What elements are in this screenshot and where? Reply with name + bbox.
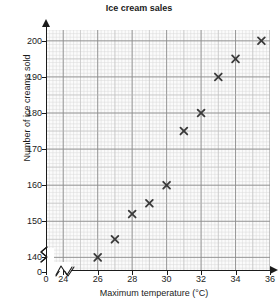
y-tick-label: 190	[8, 72, 42, 82]
x-tick-label: 28	[120, 274, 144, 284]
y-tick-label: 180	[8, 108, 42, 118]
x-tick-label: 26	[86, 274, 110, 284]
y-tick-label: 170	[8, 144, 42, 154]
x-tick-mark	[98, 270, 99, 275]
x-tick-mark	[46, 270, 47, 275]
y-tick-mark	[42, 257, 47, 258]
x-tick-mark	[167, 270, 168, 275]
y-tick-label: 200	[8, 36, 42, 46]
x-tick-label: 30	[155, 274, 179, 284]
x-tick-mark	[132, 270, 133, 275]
y-tick-mark	[42, 77, 47, 78]
x-tick-mark	[201, 270, 202, 275]
x-tick-mark	[236, 270, 237, 275]
x-tick-label: 24	[51, 274, 75, 284]
x-tick-mark	[63, 270, 64, 275]
y-tick-mark	[42, 149, 47, 150]
x-tick-mark	[270, 270, 271, 275]
y-tick-mark	[42, 113, 47, 114]
y-tick-mark	[42, 221, 47, 222]
y-tick-mark	[42, 41, 47, 42]
x-tick-label: 36	[258, 274, 278, 284]
x-tick-label: 34	[224, 274, 248, 284]
y-tick-label: 140	[8, 252, 42, 262]
y-tick-mark	[42, 185, 47, 186]
chart-container: Ice cream sales Number of ice creams sol…	[0, 0, 278, 304]
y-tick-label: 160	[8, 180, 42, 190]
x-tick-label: 32	[189, 274, 213, 284]
y-tick-label: 150	[8, 216, 42, 226]
